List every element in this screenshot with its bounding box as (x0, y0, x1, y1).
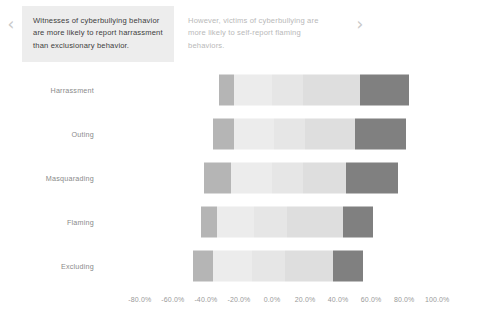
chart-row: Flaming (0, 200, 488, 244)
y-axis-tick: Flaming (0, 200, 94, 244)
bar-segment-positive[interactable] (303, 75, 359, 106)
bar-segment-neutral[interactable] (272, 75, 303, 106)
chevron-right-icon[interactable]: › (349, 0, 371, 48)
bar-segment-strongly-positive[interactable] (346, 163, 397, 194)
bar-masquarading[interactable] (204, 163, 397, 194)
x-axis: -80.0%-60.0%-40.0%-20.0%0.0%20.0%40.0%60… (0, 296, 488, 316)
x-axis-tick-label: 80.0% (394, 296, 415, 303)
y-axis-label: Flaming (14, 218, 94, 227)
bar-segment-neutral[interactable] (274, 119, 305, 150)
chart-row: Harrassment (0, 68, 488, 112)
bar-segment-negative[interactable] (213, 251, 253, 282)
x-axis-tick-label: -40.0% (194, 296, 217, 303)
bar-segment-negative[interactable] (217, 207, 253, 238)
bar-segment-negative[interactable] (234, 119, 274, 150)
chart-row: Masquarading (0, 156, 488, 200)
bar-segment-neutral[interactable] (272, 163, 303, 194)
insight-card-active-text: Witnesses of cyberbullying behavior are … (33, 15, 163, 52)
y-axis-tick: Excluding (0, 244, 94, 288)
bar-harrassment[interactable] (219, 75, 409, 106)
x-axis-tick-label: -80.0% (128, 296, 151, 303)
insight-card-next-text: However, victims of cyberbullying are mo… (188, 15, 338, 52)
y-axis-label: Harrassment (14, 86, 94, 95)
x-axis-tick-label: 20.0% (295, 296, 316, 303)
bar-segment-strongly-positive[interactable] (333, 251, 363, 282)
bar-segment-positive[interactable] (305, 119, 355, 150)
bar-segment-neutral[interactable] (252, 251, 285, 282)
chart-row: Excluding (0, 244, 488, 288)
y-axis-tick: Masquarading (0, 156, 94, 200)
x-axis-tick-label: -60.0% (161, 296, 184, 303)
insight-card-active[interactable]: Witnesses of cyberbullying behavior are … (22, 6, 174, 62)
plot-area: HarrassmentOutingMasquaradingFlamingExcl… (0, 58, 488, 296)
y-axis-label: Excluding (14, 262, 94, 271)
bar-segment-strongly-positive[interactable] (343, 207, 373, 238)
bar-outing[interactable] (213, 119, 406, 150)
insight-carousel: ‹ Witnesses of cyberbullying behavior ar… (0, 0, 488, 58)
chart-row: Outing (0, 112, 488, 156)
y-axis-label: Outing (14, 130, 94, 139)
bar-segment-strongly-positive[interactable] (355, 119, 406, 150)
bar-segment-negative[interactable] (231, 163, 272, 194)
insight-card-next[interactable]: However, victims of cyberbullying are mo… (174, 6, 349, 62)
bar-segment-positive[interactable] (285, 251, 333, 282)
bar-segment-strongly-negative[interactable] (193, 251, 213, 282)
diverging-bar-chart: HarrassmentOutingMasquaradingFlamingExcl… (0, 58, 488, 325)
y-axis-tick: Harrassment (0, 68, 94, 112)
bar-segment-positive[interactable] (287, 207, 343, 238)
bar-segment-strongly-negative[interactable] (213, 119, 234, 150)
bar-segment-strongly-positive[interactable] (360, 75, 410, 106)
bar-segment-neutral[interactable] (254, 207, 287, 238)
bar-excluding[interactable] (193, 251, 363, 282)
chevron-left-icon[interactable]: ‹ (0, 0, 22, 48)
bar-segment-strongly-negative[interactable] (219, 75, 234, 106)
x-axis-tick-label: 100.0% (425, 296, 450, 303)
x-axis-tick-label: 40.0% (328, 296, 349, 303)
bar-segment-negative[interactable] (234, 75, 272, 106)
bar-segment-strongly-negative[interactable] (201, 207, 218, 238)
bar-segment-positive[interactable] (303, 163, 346, 194)
x-axis-tick-label: 0.0% (264, 296, 281, 303)
bar-flaming[interactable] (201, 207, 373, 238)
bar-segment-strongly-negative[interactable] (204, 163, 230, 194)
y-axis-tick: Outing (0, 112, 94, 156)
x-axis-tick-label: 60.0% (361, 296, 382, 303)
x-axis-tick-label: -20.0% (227, 296, 250, 303)
y-axis-label: Masquarading (14, 174, 94, 183)
